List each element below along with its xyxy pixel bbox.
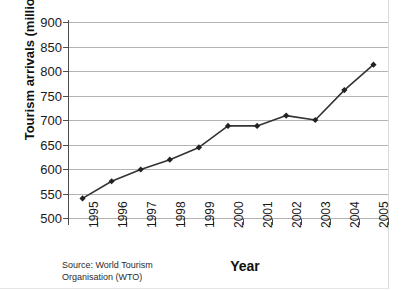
plot-area bbox=[68, 22, 388, 218]
x-tick-label: 2005 bbox=[378, 201, 390, 228]
x-tick-label: 1998 bbox=[175, 201, 187, 228]
data-series-tourism-arrivals bbox=[68, 22, 388, 218]
y-tick-label: 600 bbox=[28, 163, 62, 176]
x-tick-label: 1999 bbox=[204, 201, 216, 228]
y-tick-label: 500 bbox=[28, 212, 62, 225]
source-note-line-1: Source: World Tourism bbox=[62, 259, 153, 271]
data-point-marker bbox=[138, 166, 144, 172]
data-point-marker bbox=[283, 112, 289, 118]
y-tick-mark bbox=[63, 71, 69, 72]
x-tick-label: 1997 bbox=[146, 201, 158, 228]
data-point-marker bbox=[167, 157, 173, 163]
x-tick-label: 2004 bbox=[349, 201, 361, 228]
x-tick-label: 2003 bbox=[320, 201, 332, 228]
y-axis-title: Tourism arrivals (millions) bbox=[22, 0, 37, 145]
x-tick-label: 1995 bbox=[88, 201, 100, 228]
y-tick-mark bbox=[63, 47, 69, 48]
source-note: Source: World Tourism Organisation (WTO) bbox=[62, 259, 153, 283]
y-tick-mark bbox=[63, 169, 69, 170]
x-tick-label: 2000 bbox=[233, 201, 245, 228]
x-tick-label: 2001 bbox=[262, 201, 274, 228]
x-axis-title: Year bbox=[190, 258, 300, 274]
x-tick-mark bbox=[68, 219, 69, 225]
y-tick-label: 550 bbox=[28, 188, 62, 201]
y-tick-mark bbox=[63, 120, 69, 121]
data-point-marker bbox=[254, 123, 260, 129]
x-tick-label: 2002 bbox=[291, 201, 303, 228]
y-tick-mark bbox=[63, 22, 69, 23]
x-tick-label: 1996 bbox=[117, 201, 129, 228]
y-tick-mark bbox=[63, 96, 69, 97]
tourism-arrivals-line-chart: 500550600650700750800850900 Tourism arri… bbox=[0, 0, 404, 290]
source-note-line-2: Organisation (WTO) bbox=[62, 271, 153, 283]
y-tick-mark bbox=[63, 145, 69, 146]
series-line bbox=[83, 65, 374, 199]
y-tick-mark bbox=[63, 194, 69, 195]
